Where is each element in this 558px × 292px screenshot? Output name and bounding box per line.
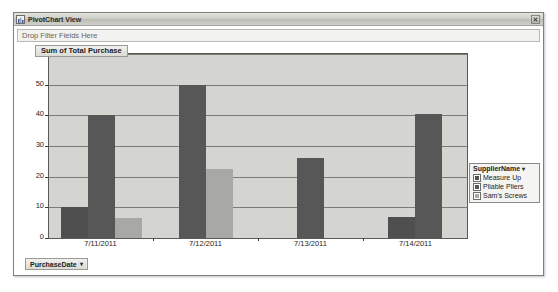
filter-drop-zone[interactable]: Drop Filter Fields Here	[17, 29, 540, 42]
y-axis-tick-label: 0	[40, 233, 44, 241]
x-axis-tick-label: 7/12/2011	[153, 240, 258, 248]
x-axis-tick-mark	[363, 238, 364, 241]
bar[interactable]	[297, 158, 324, 238]
legend-items: Measure UpPliable PliersSam's Screws	[470, 173, 539, 200]
legend-item-label: Sam's Screws	[483, 192, 527, 199]
category-field-button[interactable]: PurchaseDate ▾	[25, 258, 88, 270]
value-axis: 0102030405060	[17, 53, 48, 239]
close-icon[interactable]	[531, 15, 540, 24]
value-field-button[interactable]: Sum of Total Purchase	[35, 45, 128, 57]
bar[interactable]	[88, 115, 115, 238]
bar[interactable]	[206, 169, 233, 238]
chevron-down-icon: ▾	[80, 261, 83, 267]
y-axis-tick-label: 50	[36, 80, 44, 88]
chevron-down-icon: ▾	[522, 166, 525, 172]
legend-item-label: Pliable Pliers	[483, 183, 523, 190]
bar[interactable]	[115, 218, 142, 238]
plot-area	[48, 53, 468, 239]
legend: SupplierName ▾ Measure UpPliable PliersS…	[469, 163, 540, 203]
x-axis-tick-label: 7/11/2011	[48, 240, 153, 248]
y-axis-tick-label: 30	[36, 141, 44, 149]
window-title-bar[interactable]: PivotChart View	[14, 13, 543, 26]
legend-item[interactable]: Sam's Screws	[470, 191, 539, 200]
category-field-label: PurchaseDate	[30, 261, 77, 268]
x-axis-tick-label: 7/13/2011	[258, 240, 363, 248]
bar[interactable]	[388, 217, 415, 238]
legend-header-label: SupplierName	[473, 165, 520, 172]
category-axis: 7/11/20117/12/20117/13/20117/14/2011	[48, 239, 468, 251]
x-axis-tick-mark	[258, 238, 259, 241]
legend-item-label: Measure Up	[483, 174, 521, 181]
legend-swatch	[474, 184, 480, 190]
bar[interactable]	[61, 207, 88, 238]
filter-drop-zone-label: Drop Filter Fields Here	[22, 32, 97, 40]
pivotchart-window: PivotChart View Drop Filter Fields Here …	[13, 12, 544, 276]
legend-header[interactable]: SupplierName ▾	[470, 164, 539, 173]
y-axis-tick-label: 20	[36, 172, 44, 180]
pivotchart-icon	[16, 15, 25, 24]
gridline	[49, 85, 467, 86]
legend-swatch	[474, 193, 480, 199]
chart-area: Sum of Total Purchase 0102030405060 7/11…	[17, 45, 540, 271]
x-axis-tick-label: 7/14/2011	[363, 240, 468, 248]
y-axis-tick-label: 10	[36, 202, 44, 210]
legend-swatch	[474, 175, 480, 181]
window-title: PivotChart View	[28, 16, 81, 23]
bar[interactable]	[415, 114, 442, 238]
legend-item[interactable]: Pliable Pliers	[470, 182, 539, 191]
y-axis-tick-label: 40	[36, 110, 44, 118]
legend-item[interactable]: Measure Up	[470, 173, 539, 182]
bar[interactable]	[179, 85, 206, 238]
x-axis-tick-mark	[153, 238, 154, 241]
